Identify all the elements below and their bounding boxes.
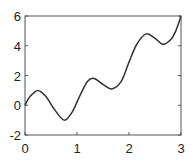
x-tick-label: 1 — [73, 141, 80, 156]
y-tick-label: 4 — [14, 39, 21, 54]
y-tick-label: 6 — [14, 9, 21, 24]
x-tick-label: 0 — [21, 141, 28, 156]
y-tick-label: 2 — [14, 69, 21, 84]
tick-marks — [25, 16, 181, 135]
x-tick-label: 2 — [125, 141, 132, 156]
y-tick-label: 0 — [14, 98, 21, 113]
tick-labels: 0123-20246 — [9, 9, 184, 156]
line-chart: 0123-20246 — [0, 0, 193, 165]
plot-area — [25, 16, 181, 135]
data-line — [25, 16, 181, 120]
y-tick-label: -2 — [9, 128, 21, 143]
x-tick-label: 3 — [177, 141, 184, 156]
